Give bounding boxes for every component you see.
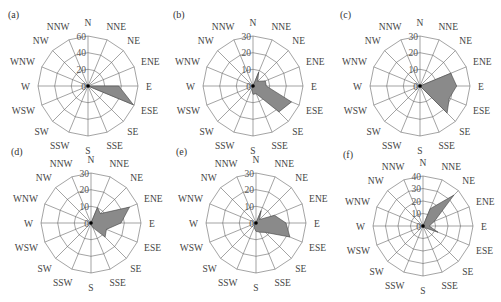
tick-label: 10 bbox=[245, 202, 255, 212]
direction-label-wsw: WSW bbox=[344, 106, 367, 116]
direction-label-sw: SW bbox=[369, 267, 383, 277]
direction-label-sw: SW bbox=[366, 127, 380, 137]
tick-label: 0 bbox=[416, 222, 421, 232]
direction-label-ssw: SSW bbox=[215, 141, 235, 151]
tick-label: 20 bbox=[245, 185, 255, 195]
direction-label-e: E bbox=[481, 222, 487, 232]
tick-label: 0 bbox=[81, 82, 86, 92]
wind-rose-panel-e: 0102030NNNENEENEEESESESSESSSWSWWSWWWNWNW… bbox=[176, 146, 328, 293]
direction-label-w: W bbox=[24, 219, 33, 229]
direction-label-sse: SSE bbox=[272, 141, 289, 151]
direction-label-s: S bbox=[420, 286, 425, 296]
direction-label-ne: NE bbox=[459, 36, 472, 46]
direction-label-nnw: NNW bbox=[50, 159, 73, 169]
direction-label-nnw: NNW bbox=[47, 22, 70, 32]
direction-label-se: SE bbox=[130, 264, 141, 274]
direction-label-wnw: WNW bbox=[13, 194, 38, 204]
direction-label-nw: NW bbox=[198, 36, 214, 46]
grid-spoke bbox=[253, 51, 288, 86]
direction-label-sw: SW bbox=[34, 127, 48, 137]
direction-label-s: S bbox=[417, 146, 422, 156]
tick-label: 0 bbox=[413, 82, 418, 92]
direction-label-sse: SSE bbox=[275, 278, 292, 288]
direction-label-sse: SSE bbox=[107, 141, 124, 151]
direction-label-e: E bbox=[149, 219, 155, 229]
tick-label: 0 bbox=[246, 82, 251, 92]
direction-label-wsw: WSW bbox=[347, 246, 370, 256]
direction-label-wsw: WSW bbox=[15, 243, 38, 253]
direction-label-ssw: SSW bbox=[218, 278, 238, 288]
direction-label-nne: NNE bbox=[272, 22, 292, 32]
direction-label-ene: ENE bbox=[144, 194, 163, 204]
frequency-polygon bbox=[91, 207, 130, 237]
tick-label: 60 bbox=[77, 32, 87, 42]
direction-label-ese: ESE bbox=[144, 243, 161, 253]
direction-label-w: W bbox=[186, 82, 195, 92]
tick-label: 30 bbox=[412, 184, 422, 194]
direction-label-ese: ESE bbox=[306, 106, 323, 116]
tick-label: 30 bbox=[80, 169, 90, 179]
direction-label-ene: ENE bbox=[476, 197, 495, 207]
direction-label-e: E bbox=[146, 82, 152, 92]
tick-label: 40 bbox=[412, 172, 422, 182]
direction-label-e: E bbox=[311, 82, 317, 92]
direction-label-w: W bbox=[353, 82, 362, 92]
direction-label-n: N bbox=[88, 155, 95, 165]
direction-label-w: W bbox=[356, 222, 365, 232]
tick-label: 30 bbox=[245, 169, 255, 179]
direction-label-wsw: WSW bbox=[180, 243, 203, 253]
direction-label-ese: ESE bbox=[473, 106, 490, 116]
panel-label: (a) bbox=[8, 9, 19, 21]
direction-label-wnw: WNW bbox=[175, 57, 200, 67]
direction-label-sse: SSE bbox=[442, 281, 459, 291]
direction-label-w: W bbox=[21, 82, 30, 92]
tick-label: 0 bbox=[84, 219, 89, 229]
direction-label-nw: NW bbox=[365, 36, 381, 46]
direction-label-se: SE bbox=[295, 264, 306, 274]
center-dot bbox=[418, 84, 422, 88]
direction-label-se: SE bbox=[459, 127, 470, 137]
direction-label-ese: ESE bbox=[476, 246, 493, 256]
grid-spoke bbox=[88, 51, 123, 86]
tick-label: 20 bbox=[409, 48, 419, 58]
direction-label-ssw: SSW bbox=[53, 278, 73, 288]
tick-label: 0 bbox=[249, 219, 254, 229]
direction-label-sw: SW bbox=[37, 264, 51, 274]
tick-label: 10 bbox=[80, 202, 90, 212]
direction-label-ese: ESE bbox=[309, 243, 326, 253]
tick-label: 10 bbox=[412, 209, 422, 219]
direction-label-nw: NW bbox=[201, 173, 217, 183]
direction-label-sse: SSE bbox=[439, 141, 456, 151]
direction-label-e: E bbox=[314, 219, 320, 229]
direction-label-ene: ENE bbox=[306, 57, 325, 67]
direction-label-s: S bbox=[88, 283, 93, 293]
direction-label-wnw: WNW bbox=[10, 57, 35, 67]
direction-label-se: SE bbox=[462, 267, 473, 277]
direction-label-ne: NE bbox=[462, 176, 475, 186]
panel-label: (f) bbox=[343, 149, 353, 161]
direction-label-sw: SW bbox=[202, 264, 216, 274]
grid-spoke bbox=[423, 226, 458, 261]
direction-label-s: S bbox=[253, 283, 258, 293]
direction-label-n: N bbox=[253, 155, 260, 165]
center-dot bbox=[254, 221, 258, 225]
direction-label-nne: NNE bbox=[275, 159, 295, 169]
direction-label-nw: NW bbox=[36, 173, 52, 183]
tick-label: 20 bbox=[77, 65, 87, 75]
tick-label: 20 bbox=[242, 48, 252, 58]
direction-label-ssw: SSW bbox=[50, 141, 70, 151]
wind-rose-panel-b: 0102030NNNENEENEEESESESSESSSWSWWSWWWNWNW… bbox=[173, 9, 325, 156]
direction-label-wnw: WNW bbox=[178, 194, 203, 204]
direction-label-ne: NE bbox=[295, 173, 308, 183]
wind-rose-panel-a: 0204060NNNENEENEEESESESSESSSWSWWSWWWNWNW… bbox=[8, 9, 160, 156]
direction-label-n: N bbox=[85, 18, 92, 28]
direction-label-ene: ENE bbox=[473, 57, 492, 67]
tick-label: 30 bbox=[409, 32, 419, 42]
direction-label-ssw: SSW bbox=[385, 281, 405, 291]
direction-label-se: SE bbox=[127, 127, 138, 137]
direction-label-nne: NNE bbox=[439, 22, 459, 32]
direction-label-n: N bbox=[417, 18, 424, 28]
panel-label: (e) bbox=[176, 146, 187, 158]
center-dot bbox=[251, 84, 255, 88]
tick-label: 10 bbox=[409, 65, 419, 75]
